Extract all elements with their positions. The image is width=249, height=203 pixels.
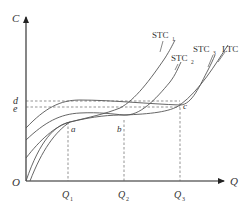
y-tick-e: e (13, 103, 18, 114)
x-tick-q1-main: Q (62, 189, 70, 200)
x-tick-q3-sub: 3 (182, 196, 185, 202)
point-a-label: a (71, 124, 76, 134)
x-tick-q2-main: Q (118, 189, 126, 200)
cost-curves-diagram: C Q O d e Q 1 Q 2 Q 3 STC 1 STC 2 (0, 0, 249, 203)
stc3-label-main: STC (193, 44, 210, 54)
ltc-curve (26, 45, 228, 181)
x-tick-q3-main: Q (174, 189, 182, 200)
stc2-label-sub: 2 (191, 59, 194, 65)
stc3-curve (26, 55, 215, 128)
stc2-label: STC 2 (171, 53, 194, 65)
stc2-label-main: STC (171, 53, 188, 63)
origin-label: O (12, 176, 20, 188)
ltc-label-main: LTC (222, 44, 238, 54)
x-axis-label: Q (230, 175, 238, 187)
stc1-label: STC 1 (152, 30, 175, 42)
stc1-leader (160, 41, 163, 52)
x-tick-q3: Q 3 (174, 189, 185, 202)
x-tick-q1-sub: 1 (70, 196, 73, 202)
x-tick-q1: Q 1 (62, 189, 73, 202)
stc3-label-sub: 3 (213, 50, 216, 56)
x-tick-q2: Q 2 (118, 189, 129, 202)
point-c-label: c (183, 101, 187, 111)
stc1-label-main: STC (152, 30, 169, 40)
stc3-label: STC 3 (193, 44, 216, 56)
stc1-curve (26, 40, 175, 158)
ltc-label: LTC (222, 44, 238, 54)
y-axis-label: C (12, 12, 20, 24)
point-b-label: b (117, 124, 122, 134)
x-tick-q2-sub: 2 (126, 196, 129, 202)
stc1-label-sub: 1 (172, 36, 175, 42)
